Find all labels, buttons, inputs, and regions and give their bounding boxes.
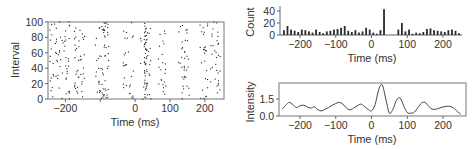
- raster-y-axis-label: Interval: [9, 42, 21, 78]
- hist-y-tick-label: 0: [269, 29, 275, 41]
- raster-x-axis: −2000100200: [54, 99, 214, 114]
- hist-x-axis: −200−1000100200: [288, 35, 452, 50]
- raster-x-axis-label: Time (ms): [110, 116, 159, 128]
- hist-x-tick-label: 200: [434, 38, 452, 50]
- raster-y-tick-label: 0: [37, 93, 43, 105]
- raster-x-tick-label: 200: [196, 102, 214, 114]
- raster-plot: 020406080100 −2000100200 Time (ms) Inter…: [9, 16, 224, 128]
- raster-y-tick-label: 100: [25, 16, 43, 28]
- intensity-plot: 0.01.5 −200−1000100200 Time (ms) Intensi…: [244, 81, 466, 145]
- intensity-y-tick-label: 0.0: [259, 110, 274, 122]
- hist-x-tick-label: −200: [288, 38, 312, 50]
- hist-x-tick-label: 100: [398, 38, 416, 50]
- intensity-frame: [279, 83, 466, 116]
- count-histogram: 02040 −200−1000100200 Time (ms) Count: [244, 5, 462, 64]
- intensity-y-axis: 0.01.5: [259, 93, 279, 122]
- hist-y-axis: 02040: [263, 5, 280, 41]
- raster-y-tick-label: 20: [31, 78, 43, 90]
- raster-x-tick-label: 0: [132, 102, 138, 114]
- hist-x-tick-label: 0: [369, 38, 375, 50]
- histogram-bars: [283, 9, 460, 35]
- hist-y-tick-label: 20: [263, 17, 275, 29]
- intensity-x-tick-label: −200: [288, 119, 312, 131]
- intensity-x-tick-label: 100: [398, 119, 416, 131]
- raster-x-tick-label: −200: [54, 102, 78, 114]
- intensity-y-axis-label: Intensity: [244, 81, 256, 122]
- figure: 020406080100 −2000100200 Time (ms) Inter…: [0, 0, 476, 149]
- raster-y-tick-label: 40: [31, 62, 43, 74]
- intensity-curve: [282, 84, 461, 114]
- intensity-y-tick-label: 1.5: [259, 93, 274, 105]
- raster-y-tick-label: 60: [31, 47, 43, 59]
- hist-y-axis-label: Count: [244, 7, 256, 36]
- raster-y-tick-label: 80: [31, 31, 43, 43]
- intensity-x-axis-label: Time (ms): [347, 133, 396, 145]
- raster-y-axis: 020406080100: [25, 16, 48, 105]
- intensity-x-tick-label: −100: [324, 119, 348, 131]
- hist-y-tick-label: 40: [263, 5, 275, 17]
- hist-x-axis-label: Time (ms): [347, 52, 396, 64]
- intensity-x-tick-label: 200: [434, 119, 452, 131]
- raster-spike-dots: [49, 21, 220, 100]
- hist-x-tick-label: −100: [324, 38, 348, 50]
- intensity-x-axis: −200−1000100200: [288, 116, 452, 131]
- raster-x-tick-label: 100: [161, 102, 179, 114]
- intensity-x-tick-label: 0: [369, 119, 375, 131]
